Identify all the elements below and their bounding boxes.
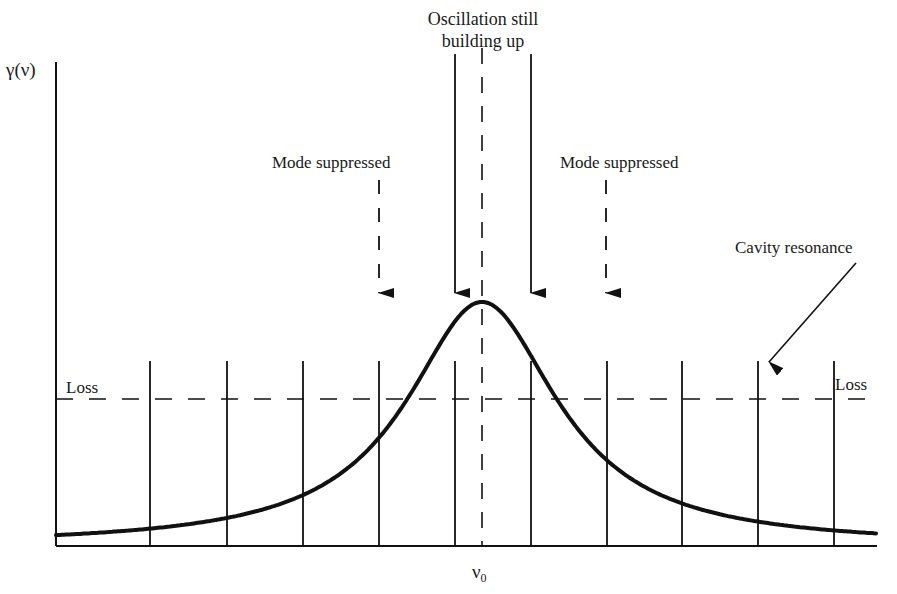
center-frequency-subscript: 0 [481,571,487,585]
center-frequency-symbol: ν [472,561,481,582]
axes [56,62,877,546]
suppressed-arrows [379,180,606,293]
cavity-resonance-label: Cavity resonance [735,238,853,258]
oscillation-label-line2: building up [383,30,583,52]
center-frequency-label: ν0 [472,562,487,588]
oscillation-label: Oscillation still building up [383,8,583,52]
gain-curve [56,302,876,535]
loss-left-label: Loss [66,378,98,398]
y-axis-label: γ(ν) [6,60,36,80]
cavity-resonance-arrow [769,263,856,362]
mode-suppressed-left-label: Mode suppressed [272,153,391,173]
loss-right-label: Loss [835,375,867,395]
mode-suppressed-right-label: Mode suppressed [560,153,679,173]
oscillation-label-line1: Oscillation still [383,8,583,30]
oscillation-arrows [455,54,531,293]
gain-curve-diagram [0,0,897,594]
